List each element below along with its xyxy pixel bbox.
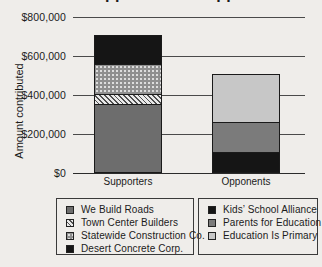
x-axis-label: Opponents xyxy=(202,176,290,187)
legend-item: We Build Roads xyxy=(66,203,193,216)
bar-segment xyxy=(95,105,161,172)
bar-segment xyxy=(213,153,279,172)
contributions-stacked-bar-figure: Supporters vs. Opponents Amount contribu… xyxy=(0,0,322,267)
y-tick-label: $600,000 xyxy=(4,50,66,62)
bar-segment xyxy=(95,95,161,106)
y-tick-label: $400,000 xyxy=(4,89,66,101)
legend-swatch xyxy=(66,219,74,227)
legend-swatch xyxy=(208,219,216,227)
bar-segment xyxy=(95,65,161,95)
legend-item-label: Town Center Builders xyxy=(81,217,178,228)
legend-item-label: We Build Roads xyxy=(81,204,154,215)
legend-swatch xyxy=(66,245,74,253)
legend-item-label: Parents for Education xyxy=(223,217,321,228)
y-tick-label: $200,000 xyxy=(4,128,66,140)
legend-item: Town Center Builders xyxy=(66,216,193,229)
gridline xyxy=(73,17,305,18)
bar-segment xyxy=(213,123,279,153)
legend-item: Parents for Education xyxy=(208,216,317,229)
legend-item-label: Education Is Primary xyxy=(223,230,317,241)
legend-swatch xyxy=(66,232,74,240)
x-axis-label: Supporters xyxy=(84,176,172,187)
legend-item-label: Desert Concrete Corp. xyxy=(81,243,183,254)
legend-swatch xyxy=(208,206,216,214)
legend-item: Desert Concrete Corp. xyxy=(66,242,193,255)
y-tick-label: $0 xyxy=(4,167,66,179)
legend-swatch xyxy=(208,232,216,240)
chart-title: Supporters vs. Opponents xyxy=(52,0,322,3)
y-tick-label: $800,000 xyxy=(4,11,66,23)
legend-box: We Build RoadsTown Center BuildersStatew… xyxy=(56,198,194,255)
legend-item-label: Kids’ School Alliance xyxy=(223,204,317,215)
x-axis-line xyxy=(73,173,305,174)
legend-item-label: Statewide Construction Co. xyxy=(81,230,205,241)
legend-swatch xyxy=(66,206,74,214)
y-axis-title: Amount contributed xyxy=(13,63,25,158)
stacked-bar-opponents xyxy=(212,74,280,174)
stacked-bar-supporters xyxy=(94,35,162,174)
bar-segment xyxy=(95,36,161,66)
legend-box: Kids’ School AllianceParents for Educati… xyxy=(198,198,318,255)
legend-item: Education Is Primary xyxy=(208,229,317,242)
bar-segment xyxy=(213,75,279,124)
legend-item: Statewide Construction Co. xyxy=(66,229,193,242)
legend-item: Kids’ School Alliance xyxy=(208,203,317,216)
plot-area xyxy=(73,17,305,173)
